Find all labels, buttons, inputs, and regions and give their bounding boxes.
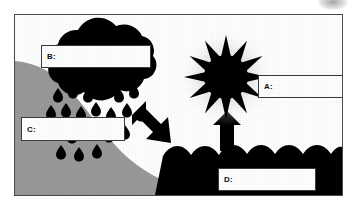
label-box-c[interactable]: C: xyxy=(21,117,125,141)
scan-artifact-smudge xyxy=(318,0,348,10)
runoff-arrow xyxy=(132,101,171,143)
label-box-a[interactable]: A: xyxy=(258,75,343,98)
diagram-frame: B: C: A: D: xyxy=(14,14,343,196)
label-d-text: D: xyxy=(224,175,233,184)
sun-disc xyxy=(204,55,248,99)
label-c-text: C: xyxy=(27,125,36,134)
label-box-d[interactable]: D: xyxy=(218,168,316,191)
label-box-b[interactable]: B: xyxy=(41,45,151,68)
label-b-text: B: xyxy=(47,52,56,61)
worksheet-canvas: B: C: A: D: xyxy=(0,0,357,204)
label-a-text: A: xyxy=(264,82,273,91)
